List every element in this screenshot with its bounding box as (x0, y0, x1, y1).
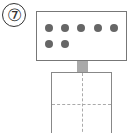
dot (61, 24, 69, 32)
dot (94, 24, 102, 32)
answer-writing-box[interactable] (51, 72, 112, 133)
vertical-guide-line (82, 73, 83, 133)
dot-card (36, 11, 127, 61)
dot (77, 24, 85, 32)
problem-number-badge: ⑦ (2, 3, 26, 27)
dot (45, 24, 53, 32)
horizontal-guide-line (52, 104, 111, 105)
dot (61, 40, 69, 48)
dot (110, 24, 118, 32)
card-connector (77, 61, 88, 72)
dot (45, 40, 53, 48)
